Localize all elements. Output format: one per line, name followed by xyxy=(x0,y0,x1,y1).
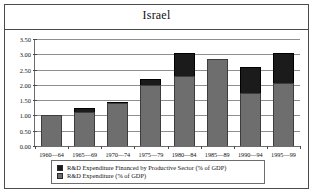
x-axis-label: 1980—84 xyxy=(172,151,197,158)
y-axis-label: 0.00 xyxy=(20,143,31,150)
x-axis-tick xyxy=(134,146,135,149)
y-axis-tick xyxy=(33,115,37,116)
x-axis-label: 1965—69 xyxy=(72,151,97,158)
y-axis-tick xyxy=(33,100,37,101)
x-axis-tick xyxy=(234,146,235,149)
y-axis-tick xyxy=(33,70,37,71)
legend-label-productive-sector: R&D Expenditure Financed by Productive S… xyxy=(67,164,226,171)
bar-segment-rd-expenditure xyxy=(240,93,261,147)
chart-legend: R&D Expenditure Financed by Productive S… xyxy=(51,160,265,184)
legend-item-rd-expenditure: R&D Expenditure (% of GDP) xyxy=(57,172,260,179)
legend-item-productive-sector: R&D Expenditure Financed by Productive S… xyxy=(57,164,260,171)
bar-1960—64 xyxy=(41,115,62,146)
chart-figure-frame: Israel 3.503.002.502.001.501.000.500.001… xyxy=(4,4,309,189)
y-axis-tick xyxy=(33,54,37,55)
title-band: Israel xyxy=(5,5,308,30)
y-axis-label: 1.50 xyxy=(20,97,31,104)
x-axis-tick xyxy=(201,146,202,149)
y-axis-label: 1.00 xyxy=(20,112,31,119)
y-axis-label: 2.50 xyxy=(20,66,31,73)
bar-segment-rd-expenditure xyxy=(107,103,128,146)
x-axis-label: 1995—99 xyxy=(271,151,296,158)
bar-1980—84 xyxy=(174,53,195,146)
plot-area: 3.503.002.502.001.501.000.500.001960—641… xyxy=(34,39,300,147)
y-axis-label: 3.00 xyxy=(20,51,31,58)
bar-1995—99 xyxy=(273,53,294,146)
x-axis-tick xyxy=(267,146,268,149)
bar-segment-rd-expenditure xyxy=(140,85,161,146)
x-axis-label: 1970—74 xyxy=(105,151,130,158)
bar-segment-rd-expenditure xyxy=(207,59,228,146)
x-axis-label: 1990—94 xyxy=(238,151,263,158)
gridline xyxy=(35,54,300,55)
x-axis-label: 1975—79 xyxy=(139,151,164,158)
bar-segment-rd-expenditure xyxy=(74,112,95,146)
bar-segment-rd-expenditure xyxy=(41,115,62,146)
y-axis-tick xyxy=(33,85,37,86)
x-axis-tick xyxy=(35,146,36,149)
x-axis-tick xyxy=(101,146,102,149)
legend-swatch-gray xyxy=(57,173,63,179)
bar-segment-productive-sector xyxy=(174,53,195,76)
bar-segment-productive-sector xyxy=(240,67,261,93)
x-axis-label: 1985—89 xyxy=(205,151,230,158)
y-axis-tick xyxy=(33,131,37,132)
y-axis-label: 0.50 xyxy=(20,127,31,134)
bar-segment-rd-expenditure xyxy=(273,83,294,146)
y-axis-tick xyxy=(33,39,37,40)
legend-label-rd-expenditure: R&D Expenditure (% of GDP) xyxy=(67,172,146,179)
bar-1965—69 xyxy=(74,108,95,146)
bar-1990—94 xyxy=(240,67,261,146)
x-axis-tick xyxy=(68,146,69,149)
y-axis-label: 2.00 xyxy=(20,81,31,88)
x-axis-tick xyxy=(168,146,169,149)
page-title: Israel xyxy=(5,8,308,23)
x-axis-tick xyxy=(300,146,301,149)
bar-1970—74 xyxy=(107,102,128,146)
plot-canvas: 3.503.002.502.001.501.000.500.001960—641… xyxy=(34,39,300,147)
x-axis-label: 1960—64 xyxy=(39,151,64,158)
bar-1975—79 xyxy=(140,79,161,146)
legend-swatch-black xyxy=(57,165,63,171)
gridline xyxy=(35,39,300,40)
bar-segment-productive-sector xyxy=(273,53,294,84)
bar-1985—89 xyxy=(207,59,228,146)
bar-segment-rd-expenditure xyxy=(174,76,195,146)
y-axis-label: 3.50 xyxy=(20,36,31,43)
